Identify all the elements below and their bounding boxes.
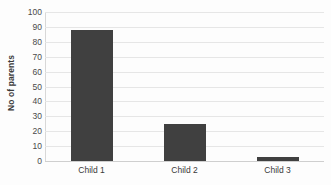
bar: [164, 124, 206, 161]
y-axis-tick-label: 80: [20, 38, 42, 47]
bar: [71, 30, 113, 161]
plot-area: [45, 12, 324, 161]
axis-baseline: [45, 161, 324, 162]
y-axis-tick-label: 10: [20, 142, 42, 151]
x-axis-tick-label: Child 3: [231, 165, 324, 175]
bar-slot: [45, 12, 138, 161]
x-axis-tick-label: Child 1: [45, 165, 138, 175]
y-axis-tick-label: 50: [20, 82, 42, 91]
bar: [257, 157, 299, 161]
y-axis-tick-label: 0: [20, 157, 42, 166]
y-axis-tick-labels: 1009080706050403020100: [20, 0, 42, 165]
bar-slot: [138, 12, 231, 161]
y-axis-tick-label: 70: [20, 52, 42, 61]
y-axis-tick-label: 20: [20, 127, 42, 136]
x-axis-tick-label: Child 2: [138, 165, 231, 175]
y-axis-tick-label: 40: [20, 97, 42, 106]
y-axis-tick-label: 100: [20, 8, 42, 17]
y-axis-tick-label: 30: [20, 112, 42, 121]
y-axis-title: No of parents: [0, 0, 22, 165]
y-axis-title-text: No of parents: [6, 54, 16, 110]
y-axis-tick-label: 90: [20, 23, 42, 32]
bar-slot: [231, 12, 324, 161]
y-axis-tick-label: 60: [20, 67, 42, 76]
bar-series: [45, 12, 324, 161]
x-axis-tick-labels: Child 1Child 2Child 3: [45, 165, 324, 175]
bar-chart: No of parents 1009080706050403020100 Chi…: [0, 0, 331, 185]
